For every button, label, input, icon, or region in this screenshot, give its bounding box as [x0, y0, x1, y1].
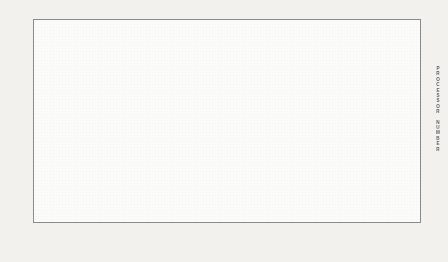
plot-area — [33, 19, 421, 223]
gantt-cell-grid — [34, 20, 420, 222]
y-axis-label: P R O C E S S O R N U M B E R — [433, 66, 443, 152]
task-gantt-chart: P R O C E S S O R N U M B E R — [0, 0, 448, 262]
legend — [33, 235, 419, 259]
y-axis-label-line: R — [433, 147, 443, 152]
